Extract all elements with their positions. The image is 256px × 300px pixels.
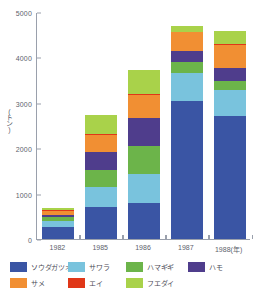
x-axis-tick-mark	[166, 235, 167, 239]
legend-label: エイ	[89, 278, 103, 288]
bar-segment[interactable]	[85, 187, 117, 207]
legend-color-swatch	[126, 262, 143, 272]
legend-color-swatch	[10, 262, 27, 272]
x-axis-label: 1986	[135, 244, 151, 251]
bar-segment[interactable]	[214, 81, 246, 90]
y-axis-title: (トン)	[4, 108, 14, 132]
bar-segment[interactable]	[214, 68, 246, 81]
bar-segment[interactable]	[214, 45, 246, 69]
legend-item[interactable]: フエダイ	[126, 276, 188, 290]
x-axis-tick-mark	[80, 235, 81, 239]
bar-segment[interactable]	[171, 62, 203, 72]
legend-label: ハモ	[209, 262, 223, 272]
x-axis-tick-mark	[165, 235, 166, 239]
bar-segment[interactable]	[42, 227, 74, 239]
bar-segment[interactable]	[85, 152, 117, 169]
bar-segment[interactable]	[128, 203, 160, 239]
y-axis-tick-label: 3000	[16, 100, 37, 107]
x-axis-tick-mark	[79, 235, 80, 239]
y-axis-tick-label: 2000	[16, 146, 37, 153]
x-axis-tick-mark	[36, 235, 37, 239]
bar-segment[interactable]	[214, 90, 246, 116]
legend-color-swatch	[188, 262, 205, 272]
bar-segment[interactable]	[171, 51, 203, 62]
bar-series-container	[37, 13, 250, 239]
legend-color-swatch	[68, 278, 85, 288]
x-axis-tick-mark	[252, 235, 253, 239]
x-axis-tick-mark	[208, 235, 209, 239]
legend-item[interactable]: ハモ	[188, 260, 244, 274]
x-axis-tick-mark	[209, 235, 210, 239]
stacked-bar-chart: (トン) 010002000300040005000 1982198519861…	[0, 0, 256, 300]
bar-group[interactable]	[42, 208, 74, 239]
legend-label: ハマギギ	[147, 262, 174, 272]
y-axis-tick-label: 1000	[16, 191, 37, 198]
bar-segment[interactable]	[85, 115, 117, 134]
legend-item[interactable]: ハマギギ	[126, 260, 188, 274]
bar-group[interactable]	[85, 115, 117, 239]
chart-legend: ソウダガツオサワラハマギギハモサメエイフエダイ	[10, 260, 246, 292]
legend-color-swatch	[10, 278, 27, 288]
bar-segment[interactable]	[85, 207, 117, 239]
legend-label: ソウダガツオ	[31, 262, 72, 272]
bar-segment[interactable]	[128, 118, 160, 146]
bar-segment[interactable]	[214, 31, 246, 44]
x-axis-label: 1982	[50, 244, 66, 251]
legend-label: フエダイ	[147, 278, 174, 288]
bar-group[interactable]	[171, 26, 203, 239]
legend-item[interactable]: サメ	[10, 276, 68, 290]
x-axis-label: 1985	[92, 244, 108, 251]
bar-segment[interactable]	[128, 70, 160, 94]
bar-segment[interactable]	[214, 116, 246, 239]
x-axis-label: 1988(年)	[215, 244, 242, 254]
bar-group[interactable]	[214, 31, 246, 239]
y-axis-tick-label: 5000	[16, 10, 37, 17]
bar-group[interactable]	[128, 70, 160, 239]
bar-segment[interactable]	[128, 95, 160, 118]
bar-segment[interactable]	[171, 32, 203, 51]
bar-segment[interactable]	[171, 73, 203, 101]
bar-segment[interactable]	[85, 170, 117, 187]
bar-segment[interactable]	[128, 146, 160, 174]
y-axis-tick-label: 4000	[16, 55, 37, 62]
bar-segment[interactable]	[128, 174, 160, 204]
x-axis-label: 1987	[178, 244, 194, 251]
legend-item[interactable]: ソウダガツオ	[10, 260, 68, 274]
legend-item[interactable]: サワラ	[68, 260, 126, 274]
bar-segment[interactable]	[171, 101, 203, 239]
plot-area: 010002000300040005000	[36, 13, 250, 240]
legend-label: サメ	[31, 278, 45, 288]
x-axis-tick-mark	[122, 235, 123, 239]
x-axis-tick-mark	[123, 235, 124, 239]
y-axis-tick-mark	[37, 240, 41, 241]
legend-color-swatch	[126, 278, 143, 288]
legend-color-swatch	[68, 262, 85, 272]
legend-item[interactable]: エイ	[68, 276, 126, 290]
bar-segment[interactable]	[85, 135, 117, 153]
legend-label: サワラ	[89, 262, 109, 272]
